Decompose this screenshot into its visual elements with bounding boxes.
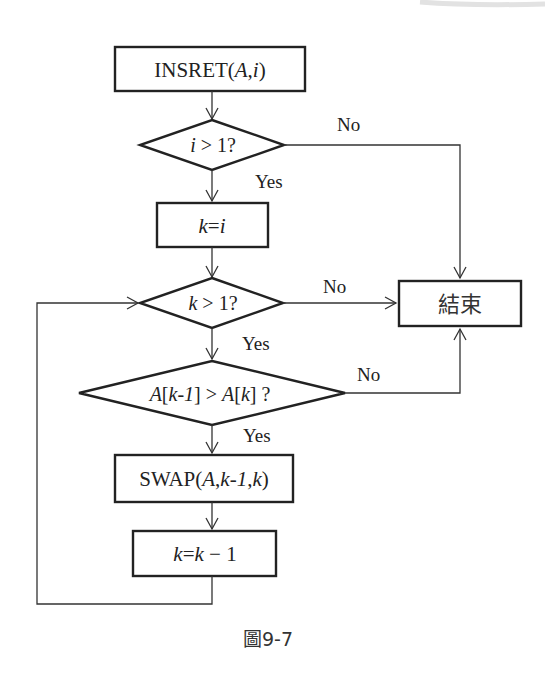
figure-caption: 圖9-7 [243,628,293,650]
label-cond-i-yes: Yes [255,171,283,192]
label-compare-yes: Yes [243,425,271,446]
decision-compare: A[k-1] > A[k] ? [79,361,345,425]
end-box: 結束 [399,281,521,326]
label-cond-k-yes: Yes [242,333,270,354]
assign-k-box: k=i [157,203,268,247]
start-label: INSRET(A,i) [154,58,265,82]
decision-k-greater-1: k > 1? [140,278,283,328]
swap-box: SWAP(A,k-1,k) [115,455,293,502]
flowchart: INSRET(A,i) i > 1? No Yes k=i k > 1? No … [0,0,545,686]
label-cond-k-no: No [323,276,346,297]
decision-i-greater-1: i > 1? [140,120,284,170]
decrement-label: k=k − 1 [173,542,236,566]
label-compare-no: No [357,364,380,385]
assign-k-label: k=i [198,214,225,238]
scan-artifact [420,2,545,5]
swap-label: SWAP(A,k-1,k) [139,467,269,491]
decision-i-label: i > 1? [190,134,236,156]
arrow-cond-i-no-to-end [284,145,460,278]
decrement-box: k=k − 1 [133,531,276,576]
end-label: 結束 [438,292,482,317]
start-box: INSRET(A,i) [115,47,305,91]
label-cond-i-no: No [337,114,360,135]
decision-compare-label: A[k-1] > A[k] ? [148,383,271,405]
decision-k-label: k > 1? [188,292,237,314]
